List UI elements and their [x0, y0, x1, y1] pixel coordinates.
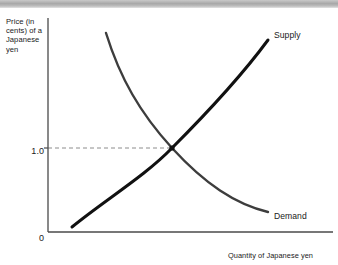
y-axis-title: Price (in cents) of a Japanese yen — [6, 17, 48, 54]
supply-curve-label: Supply — [274, 31, 301, 40]
chart-canvas — [0, 8, 338, 265]
top-banner-strip — [0, 0, 338, 8]
y-axis-tick-label-1: 1.0 — [22, 147, 44, 156]
supply-demand-figure: Price (in cents) of a Japanese yen 1.0 0… — [0, 8, 338, 265]
y-axis-tick-label-0: 0 — [30, 234, 44, 243]
x-axis-title: Quantity of Japanese yen — [228, 251, 338, 260]
supply-curve — [72, 40, 268, 227]
demand-curve-label: Demand — [274, 212, 307, 221]
equilibrium-point-marker — [169, 145, 174, 150]
